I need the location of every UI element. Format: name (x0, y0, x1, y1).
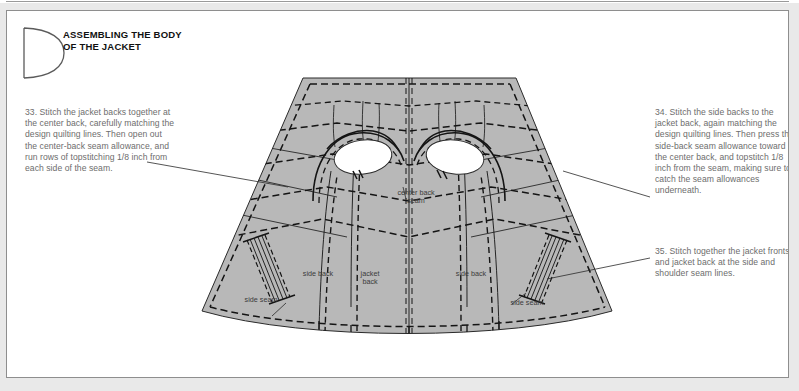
label-side-back-right: side back (447, 270, 495, 278)
label-side-seam-right: side seam (504, 299, 550, 307)
instruction-note-33: 33. Stitch the jacket backs together at … (25, 107, 175, 174)
quilting-chevrons (217, 123, 601, 239)
hem-notches (319, 321, 499, 339)
leader-line-35 (547, 258, 650, 279)
armhole-openings (332, 136, 486, 178)
section-letter-d (21, 25, 67, 81)
ease-lines (333, 101, 484, 149)
book-page: ASSEMBLING THE BODY OF THE JACKET 33. St… (6, 10, 789, 378)
page-top-rule (0, 0, 799, 3)
label-jacket-back: jacket back (352, 270, 388, 287)
instruction-note-35: 35. Stitch together the jacket fronts an… (655, 246, 789, 280)
instruction-note-34: 34. Stitch the side backs to the jacket … (655, 107, 789, 197)
side-seam-topstitch-left (243, 233, 295, 304)
label-side-seam-left: side seam (238, 296, 284, 304)
leader-line-side-seam-left (272, 303, 286, 316)
panel-dashed-seams (325, 161, 493, 333)
panel-seam-lines (319, 159, 499, 329)
side-seam-topstitch-right (519, 233, 571, 304)
heading-line-2: OF THE JACKET (63, 41, 141, 52)
leader-lines (147, 162, 650, 316)
quilting-chevrons-upper (275, 101, 543, 107)
leader-line-34 (563, 171, 650, 197)
label-center-back-seam: center back seam (385, 189, 447, 206)
page-title: ASSEMBLING THE BODY OF THE JACKET (63, 29, 253, 52)
armhole-tack-marks (353, 170, 447, 179)
heading-line-1: ASSEMBLING THE BODY (63, 29, 182, 40)
label-side-back-left: side back (294, 270, 342, 278)
